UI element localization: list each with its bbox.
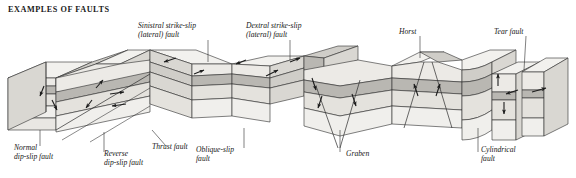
label-dextral-strike-slip-fault: Dextral strike-slip (lateral) fault xyxy=(246,22,301,39)
figure-canvas: EXAMPLES OF FAULTS xyxy=(0,0,576,178)
block-horst xyxy=(392,52,462,128)
block-sinistral-strike-slip xyxy=(150,50,232,118)
label-sinistral-strike-slip-fault: Sinistral strike-slip (lateral) fault xyxy=(138,22,196,39)
label-tear-fault: Tear fault xyxy=(494,28,523,37)
label-graben: Graben xyxy=(346,150,369,159)
label-oblique-slip-fault: Oblique-slip fault xyxy=(196,146,234,163)
label-cylindrical-fault: Cylindrical fault xyxy=(481,146,516,163)
label-thrust-fault: Thrust fault xyxy=(152,143,188,152)
block-tear-fault-right xyxy=(522,58,568,136)
label-reverse-dip-slip-fault: Reverse dip-slip fault xyxy=(104,150,143,167)
label-horst: Horst xyxy=(399,28,416,37)
block-dextral-strike-slip xyxy=(232,56,304,122)
label-normal-dip-slip-fault: Normal dip-slip fault xyxy=(14,144,53,161)
block-graben xyxy=(304,60,392,148)
